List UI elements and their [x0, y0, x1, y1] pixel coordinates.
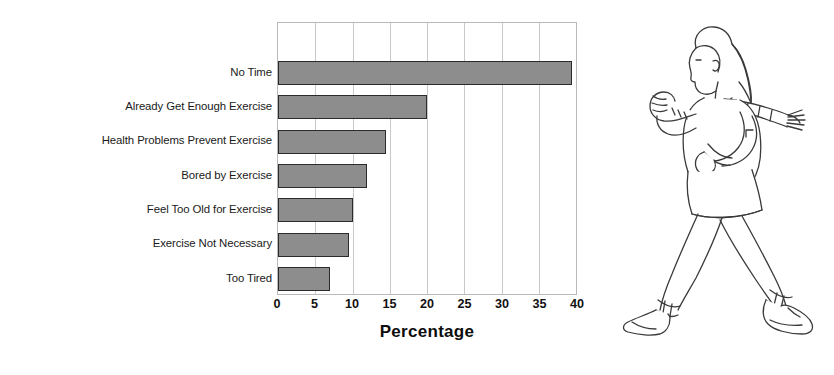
bar-row [278, 267, 576, 291]
bar-health-problems-prevent-exercise [278, 130, 386, 154]
category-label: No Time [230, 66, 272, 79]
bar-already-get-enough-exercise [278, 95, 427, 119]
figure-canvas: No Time Already Get Enough Exercise Heal… [0, 0, 834, 375]
bar-no-time [278, 61, 572, 85]
bar-row [278, 198, 576, 222]
bar-row [278, 164, 576, 188]
x-tick-label: 25 [457, 297, 471, 311]
x-tick-label: 5 [311, 297, 318, 311]
bar-row [278, 233, 576, 257]
bar-exercise-not-necessary [278, 233, 349, 257]
bars-layer [278, 56, 576, 296]
category-axis: No Time Already Get Enough Exercise Heal… [40, 55, 272, 295]
category-label: Already Get Enough Exercise [125, 100, 272, 113]
x-tick-label: 20 [420, 297, 434, 311]
category-label: Feel Too Old for Exercise [147, 203, 272, 216]
x-tick-label: 30 [495, 297, 509, 311]
bar-row [278, 61, 576, 85]
bar-feel-too-old-for-exercise [278, 198, 353, 222]
bar-too-tired [278, 267, 330, 291]
x-axis-ticks: 0510152025303540 [277, 297, 577, 317]
x-tick-label: 15 [382, 297, 396, 311]
x-tick-label: 0 [273, 297, 280, 311]
category-label: Health Problems Prevent Exercise [102, 134, 272, 147]
category-label: Too Tired [226, 272, 272, 285]
bar-row [278, 130, 576, 154]
bar-chart: No Time Already Get Enough Exercise Heal… [0, 0, 610, 375]
plot-area [277, 22, 577, 295]
category-label: Exercise Not Necessary [153, 237, 272, 250]
walking-woman-illustration [612, 4, 834, 372]
category-label: Bored by Exercise [181, 169, 272, 182]
x-tick-label: 10 [345, 297, 359, 311]
x-tick-label: 40 [570, 297, 584, 311]
x-axis-title: Percentage [277, 322, 577, 342]
x-tick-label: 35 [532, 297, 546, 311]
bar-row [278, 95, 576, 119]
bar-bored-by-exercise [278, 164, 367, 188]
